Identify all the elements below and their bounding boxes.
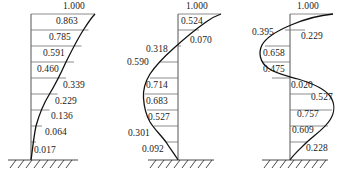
mode-3-label-top: 1.000	[297, 2, 319, 12]
mode-2-label-s7: 0.318	[146, 45, 168, 55]
mode-1-label-s6: 0.460	[37, 65, 59, 75]
mode-2-ground-hatch	[148, 160, 214, 168]
mode-1-ground-hatch	[8, 160, 78, 168]
mode-1-label-s7: 0.591	[43, 49, 65, 59]
mode-1-label-s2: 0.064	[45, 128, 67, 138]
mode-1-label-s4: 0.229	[55, 97, 77, 107]
mode-2-floor-lines	[145, 14, 221, 142]
mode-3-ground-hatch	[262, 160, 328, 168]
mode-3-label-s7: 0.658	[263, 49, 285, 59]
mode-1-label-s1: 0.017	[34, 146, 56, 156]
mode-3-label-s9: 0.229	[301, 32, 323, 42]
mode-2-label-s3: 0.527	[148, 113, 170, 123]
mode-1-label-s8: 0.785	[49, 33, 71, 43]
mode-2-label-top: 1.000	[186, 2, 208, 12]
mode-3-label-s2: 0.609	[292, 126, 314, 136]
mode-3-label-s5: 0.020	[291, 81, 313, 91]
mode-1-label-s3: 0.136	[51, 112, 73, 122]
mode-2-label-s8: 0.070	[190, 36, 212, 46]
mode-3-label-s4: 0.527	[311, 93, 333, 103]
mode-2-label-s5: 0.714	[146, 81, 168, 91]
mode-2-label-s2: 0.301	[128, 129, 150, 139]
mode-2-label-s9: 0.524	[181, 17, 203, 27]
mode-1-label-top: 1.000	[63, 2, 85, 12]
mode-shape-figure: 1.000 0.863 0.785 0.591 0.460 0.339 0.22…	[0, 0, 350, 179]
mode-3-label-s3: 0.757	[297, 110, 319, 120]
mode-3-label-s6: 0.475	[263, 65, 285, 75]
mode-3-label-s8: 0.395	[252, 28, 274, 38]
mode-2-label-s4: 0.683	[146, 97, 168, 107]
mode-3-label-s1: 0.228	[306, 144, 328, 154]
mode-2-label-s1: 0.092	[142, 145, 164, 155]
mode-1-label-s9: 0.863	[56, 17, 78, 27]
mode-2-label-s6: 0.590	[127, 58, 149, 68]
mode-1-label-s5: 0.339	[63, 81, 85, 91]
